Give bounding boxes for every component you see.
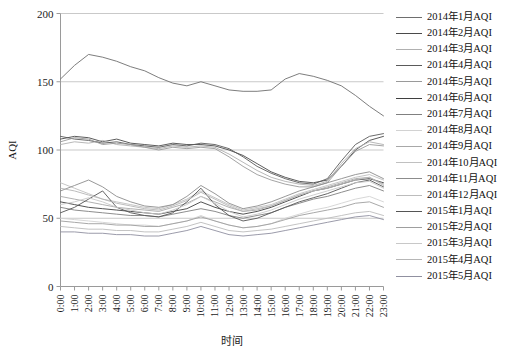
x-tick-label: 11:00 <box>209 295 220 317</box>
legend-item-label: 2014年4月AQI <box>427 60 492 71</box>
legend-item-12[interactable]: 2014年12月AQI <box>396 187 524 203</box>
legend-item-label: 2014年3月AQI <box>427 44 492 55</box>
x-tick-label: 4:00 <box>111 295 122 313</box>
legend-item-2[interactable]: 2014年2月AQI <box>396 25 524 41</box>
legend-item-label: 2014年6月AQI <box>427 93 492 104</box>
legend-item-13[interactable]: 2015年1月AQI <box>396 203 524 219</box>
legend-swatch-icon <box>396 49 422 50</box>
x-tick-label: 20:00 <box>336 295 347 318</box>
legend-item-5[interactable]: 2014年5月AQI <box>396 74 524 90</box>
x-tick-label: 2:00 <box>83 295 94 313</box>
legend-item-17[interactable]: 2015年5月AQI <box>396 268 524 284</box>
aqi-line-chart: 0501001502000:001:002:003:004:005:006:00… <box>0 0 524 353</box>
legend-swatch-icon <box>396 243 422 244</box>
series-line-3 <box>61 140 384 185</box>
legend-item-label: 2015年4月AQI <box>427 255 492 266</box>
legend-item-label: 2015年1月AQI <box>427 206 492 217</box>
x-tick-label: 3:00 <box>97 295 108 313</box>
x-tick-label: 22:00 <box>364 295 375 318</box>
legend-item-8[interactable]: 2014年8月AQI <box>396 122 524 138</box>
legend-swatch-icon <box>396 130 422 131</box>
x-tick-label: 17:00 <box>294 295 305 318</box>
legend-swatch-icon <box>396 259 422 260</box>
legend-item-label: 2015年2月AQI <box>427 222 492 233</box>
series-line-12 <box>61 211 384 231</box>
x-tick-label: 5:00 <box>125 295 136 313</box>
legend-item-1[interactable]: 2014年1月AQI <box>396 9 524 25</box>
x-tick-label: 14:00 <box>252 295 263 318</box>
y-tick-label: 200 <box>37 8 54 20</box>
x-tick-label: 0:00 <box>55 295 66 313</box>
x-tick-label: 10:00 <box>195 295 206 318</box>
legend-item-11[interactable]: 2014年11月AQI <box>396 171 524 187</box>
y-tick-label: 150 <box>37 76 54 88</box>
legend-swatch-icon <box>396 146 422 147</box>
series-line-1 <box>61 54 384 115</box>
legend-swatch-icon <box>396 81 422 82</box>
legend-item-7[interactable]: 2014年7月AQI <box>396 106 524 122</box>
x-tick-label: 6:00 <box>139 295 150 313</box>
chart-legend: 2014年1月AQI2014年2月AQI2014年3月AQI2014年4月AQI… <box>396 9 524 284</box>
legend-item-label: 2014年9月AQI <box>427 141 492 152</box>
legend-item-6[interactable]: 2014年6月AQI <box>396 90 524 106</box>
x-tick-label: 12:00 <box>224 295 235 318</box>
legend-item-16[interactable]: 2015年4月AQI <box>396 252 524 268</box>
legend-swatch-icon <box>396 195 422 196</box>
legend-item-label: 2014年10月AQI <box>427 158 497 169</box>
x-tick-label: 21:00 <box>350 295 361 318</box>
legend-swatch-icon <box>396 114 422 115</box>
legend-swatch-icon <box>396 211 422 212</box>
legend-item-label: 2014年7月AQI <box>427 109 492 120</box>
legend-item-label: 2014年5月AQI <box>427 77 492 88</box>
series-line-15 <box>61 181 384 216</box>
legend-item-9[interactable]: 2014年9月AQI <box>396 139 524 155</box>
series-line-5 <box>61 138 384 187</box>
series-line-2 <box>61 136 384 182</box>
y-tick-label: 0 <box>48 281 54 293</box>
legend-item-14[interactable]: 2015年2月AQI <box>396 219 524 235</box>
x-tick-label: 23:00 <box>378 295 389 318</box>
x-tick-label: 15:00 <box>266 295 277 318</box>
y-axis-title: AQI <box>6 140 18 160</box>
legend-item-10[interactable]: 2014年10月AQI <box>396 155 524 171</box>
legend-item-3[interactable]: 2014年3月AQI <box>396 41 524 57</box>
legend-swatch-icon <box>396 17 422 18</box>
x-tick-label: 13:00 <box>238 295 249 318</box>
legend-swatch-icon <box>396 276 422 277</box>
x-tick-label: 8:00 <box>167 295 178 313</box>
legend-swatch-icon <box>396 162 422 163</box>
legend-item-label: 2014年11月AQI <box>427 174 497 185</box>
legend-item-15[interactable]: 2015年3月AQI <box>396 236 524 252</box>
x-axis-title: 时间 <box>221 335 243 347</box>
x-tick-label: 18:00 <box>308 295 319 318</box>
legend-item-label: 2015年3月AQI <box>427 238 492 249</box>
x-tick-label: 19:00 <box>322 295 333 318</box>
legend-item-label: 2014年12月AQI <box>427 190 497 201</box>
legend-item-label: 2014年1月AQI <box>427 12 492 23</box>
legend-item-label: 2014年2月AQI <box>427 28 492 39</box>
x-tick-label: 9:00 <box>181 295 192 313</box>
legend-swatch-icon <box>396 98 422 99</box>
legend-swatch-icon <box>396 33 422 34</box>
legend-swatch-icon <box>396 65 422 66</box>
legend-item-label: 2015年5月AQI <box>427 271 492 282</box>
y-tick-label: 50 <box>43 212 55 224</box>
legend-swatch-icon <box>396 178 422 179</box>
y-tick-label: 100 <box>37 144 54 156</box>
x-tick-label: 7:00 <box>153 295 164 313</box>
x-tick-label: 1:00 <box>69 295 80 313</box>
legend-item-4[interactable]: 2014年4月AQI <box>396 58 524 74</box>
x-tick-label: 16:00 <box>280 295 291 318</box>
legend-swatch-icon <box>396 227 422 228</box>
legend-item-label: 2014年8月AQI <box>427 125 492 136</box>
series-line-4 <box>61 134 384 185</box>
